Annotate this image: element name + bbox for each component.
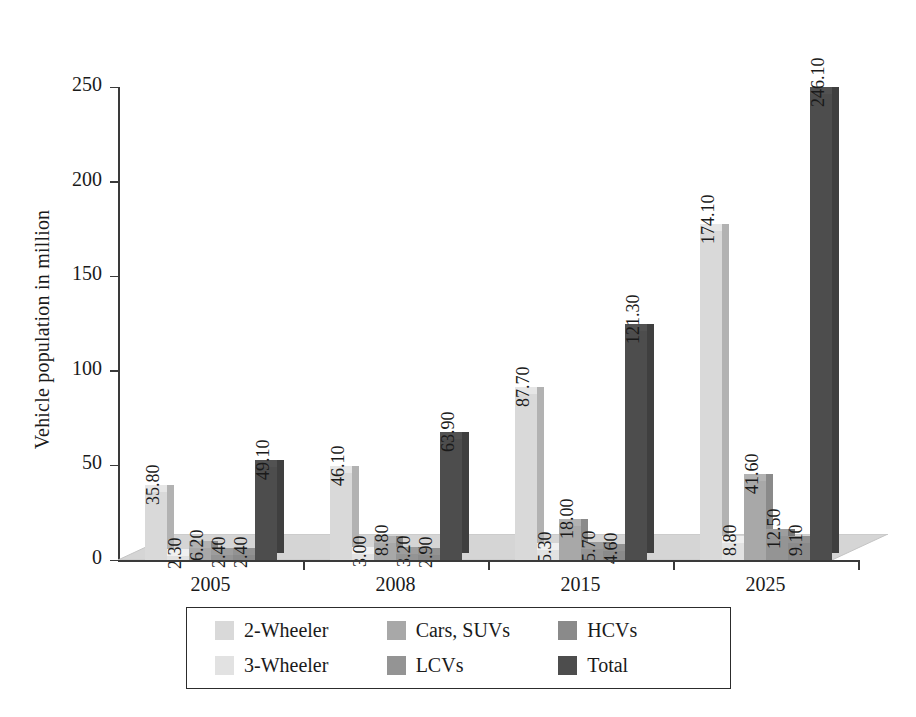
bar-value-label: 87.70 [513, 367, 534, 408]
legend-item: Cars, SUVs [387, 619, 559, 642]
x-axis-tick-label: 2025 [706, 573, 826, 596]
bar-side [537, 387, 544, 553]
bar-value-label: 8.80 [720, 525, 741, 557]
x-axis-tick [488, 560, 490, 570]
x-axis-tick-label: 2005 [151, 573, 271, 596]
bar-value-label: 3.00 [350, 536, 371, 568]
legend-item: 2-Wheeler [215, 619, 387, 642]
legend-label: LCVs [416, 654, 464, 677]
bar-value-label: 63.90 [438, 412, 459, 453]
bar-value-label: 18.00 [557, 498, 578, 539]
bar-value-label: 49.10 [253, 440, 274, 481]
legend-item: 3-Wheeler [215, 654, 387, 677]
x-axis-tick [673, 560, 675, 570]
bar [625, 331, 647, 560]
legend-swatch [558, 621, 577, 640]
bar-chart: Vehicle population in million 0501001502… [0, 0, 916, 717]
legend-item: HCVs [558, 619, 730, 642]
bar-value-label: 2.40 [231, 537, 252, 569]
legend-label: 3-Wheeler [244, 654, 328, 677]
legend-label: HCVs [587, 619, 637, 642]
bar-value-label: 174.10 [698, 194, 719, 244]
bar-value-label: 246.10 [808, 58, 829, 108]
legend-label: Cars, SUVs [416, 619, 510, 642]
bar-face [810, 94, 832, 560]
bar-value-label: 46.10 [328, 445, 349, 486]
bar-value-label: 2.40 [209, 537, 230, 569]
bar [810, 94, 832, 560]
bar-value-label: 2.90 [416, 536, 437, 568]
bar-value-label: 5.70 [579, 531, 600, 563]
legend-swatch [387, 621, 406, 640]
legend-label: Total [587, 654, 628, 677]
bar-value-label: 3.20 [394, 535, 415, 567]
bar-face [700, 231, 722, 560]
legend-item: LCVs [387, 654, 559, 677]
bar-face [515, 394, 537, 560]
x-axis-tick [858, 560, 860, 570]
bar-face [440, 439, 462, 560]
bar [440, 439, 462, 560]
bar-face [625, 331, 647, 560]
bar-value-label: 35.80 [143, 465, 164, 506]
bar-value-label: 12.50 [764, 509, 785, 550]
bar [255, 467, 277, 560]
legend-swatch [387, 656, 406, 675]
bar-value-label: 121.30 [623, 294, 644, 344]
bar-value-label: 9.10 [786, 524, 807, 556]
legend-label: 2-Wheeler [244, 619, 328, 642]
bar-value-label: 41.60 [742, 454, 763, 495]
bar-value-label: 5.30 [535, 531, 556, 563]
bar-side [462, 432, 469, 553]
bar-value-label: 2.30 [165, 537, 186, 569]
bar-side [277, 460, 284, 553]
bar-value-label: 6.20 [187, 530, 208, 562]
legend-swatch [215, 656, 234, 675]
bar [515, 394, 537, 560]
legend-item: Total [558, 654, 730, 677]
legend-swatch [215, 621, 234, 640]
x-axis-tick [303, 560, 305, 570]
bar-face [255, 467, 277, 560]
chart-legend: 2-WheelerCars, SUVsHCVs3-WheelerLCVsTota… [186, 607, 731, 689]
bar-side [647, 324, 654, 553]
bar-value-label: 8.80 [372, 525, 393, 557]
bar-side [832, 87, 839, 553]
legend-swatch [558, 656, 577, 675]
bar [700, 231, 722, 560]
bar-side [722, 224, 729, 553]
x-axis-tick-label: 2008 [336, 573, 456, 596]
x-axis-tick-label: 2015 [521, 573, 641, 596]
